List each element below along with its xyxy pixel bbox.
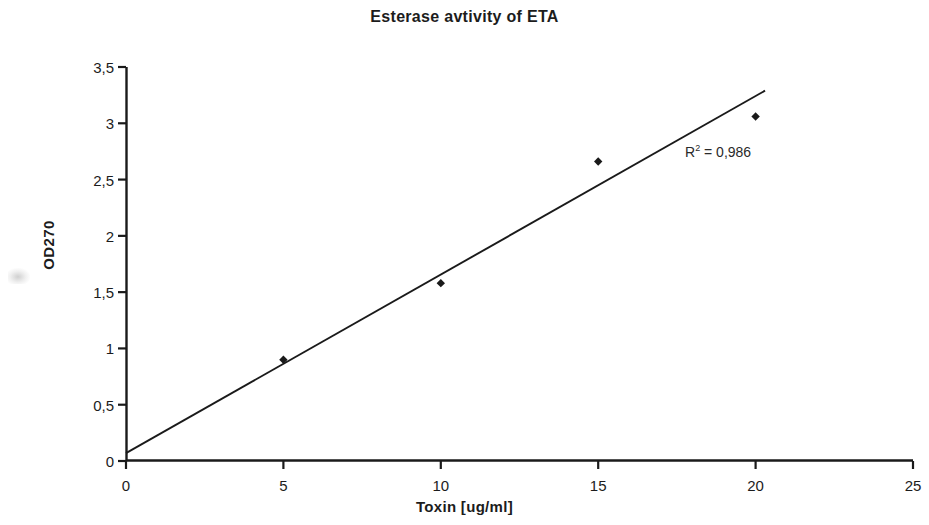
x-axis-tick-label: 5 [279, 477, 287, 494]
x-axis-title: Toxin [ug/ml] [0, 498, 929, 515]
trendline [126, 91, 765, 453]
y-axis-tick-label: 2,5 [60, 171, 114, 188]
data-point-marker [594, 157, 602, 165]
y-axis-tick-marks [118, 67, 126, 461]
y-axis-title: OD270 [40, 220, 57, 270]
x-axis-tick-label: 15 [590, 477, 607, 494]
x-axis-tick-label: 10 [432, 477, 449, 494]
y-axis-tick-label: 3,5 [60, 59, 114, 76]
y-axis-tick-label: 1,5 [60, 284, 114, 301]
y-axis-tick-label: 2 [60, 227, 114, 244]
plot-area [0, 0, 929, 525]
data-point-marker [751, 112, 759, 120]
y-axis-tick-label: 0 [60, 453, 114, 470]
x-axis-tick-label: 25 [905, 477, 922, 494]
data-point-marker [437, 279, 445, 287]
y-axis-tick-label: 1 [60, 340, 114, 357]
x-axis-tick-marks [126, 461, 913, 469]
trendline-segment [126, 91, 765, 453]
r-squared-base: R [685, 144, 695, 160]
y-axis-tick-label: 0,5 [60, 396, 114, 413]
r-squared-value: = 0,986 [700, 144, 751, 160]
y-axis-tick-label: 3 [60, 115, 114, 132]
x-axis-tick-label: 0 [122, 477, 130, 494]
chart-page: Esterase avtivity of ETA 00,511,522,533,… [0, 0, 929, 525]
x-axis-tick-label: 20 [747, 477, 764, 494]
r-squared-annotation: R2 = 0,986 [685, 143, 751, 160]
